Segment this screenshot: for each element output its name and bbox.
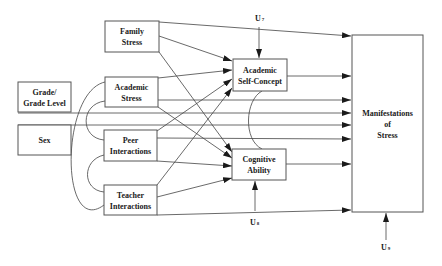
error-term-u8: U8 — [250, 218, 260, 227]
svg-text:Academic: Academic — [243, 66, 277, 75]
svg-text:U8: U8 — [250, 218, 260, 227]
node-cognitive-ability: Cognitive Ability — [232, 149, 286, 180]
node-grade: Grade/ Grade Level — [18, 82, 71, 112]
svg-text:Interactions: Interactions — [110, 202, 151, 211]
svg-text:Manifestations: Manifestations — [362, 109, 413, 118]
edge-peer-selfconcept — [157, 79, 232, 131]
svg-text:Stress: Stress — [377, 131, 397, 140]
edge-peer-cognitive — [157, 161, 232, 166]
path-diagram: Grade/ Grade Level Sex Family Stress Aca… — [0, 0, 442, 266]
edge-academic-cognitive — [158, 107, 232, 158]
edge-family-manifest — [159, 22, 351, 36]
svg-text:Stress: Stress — [121, 94, 141, 103]
edge-family-selfconcept — [159, 36, 232, 61]
edge-teacher-cognitive — [157, 178, 232, 197]
svg-text:Stress: Stress — [122, 38, 142, 47]
node-academic-self-concept: Academic Self-Concept — [233, 59, 287, 91]
error-term-u9: U9 — [381, 243, 391, 252]
svg-text:Interactions: Interactions — [110, 147, 151, 156]
svg-text:Self-Concept: Self-Concept — [238, 77, 282, 86]
svg-text:Peer: Peer — [123, 136, 139, 145]
correlation-academic-teacher — [71, 82, 105, 210]
svg-text:Academic: Academic — [115, 83, 149, 92]
edge-teacher-manifest — [157, 210, 351, 215]
svg-text:U7: U7 — [255, 14, 265, 23]
edge-academic-selfconcept — [158, 70, 232, 78]
node-teacher-interactions: Teacher Interactions — [104, 185, 157, 215]
svg-text:Cognitive: Cognitive — [243, 155, 276, 164]
svg-text:Ability: Ability — [247, 166, 271, 175]
svg-text:Grade/: Grade/ — [33, 88, 58, 97]
svg-text:U9: U9 — [381, 243, 391, 252]
node-sex: Sex — [18, 125, 71, 155]
svg-text:Family: Family — [120, 27, 144, 36]
node-academic-stress: Academic Stress — [105, 77, 158, 107]
edge-peer-manifest — [157, 138, 351, 139]
svg-text:Grade Level: Grade Level — [23, 99, 66, 108]
node-family-stress: Family Stress — [105, 21, 159, 52]
node-peer-interactions: Peer Interactions — [104, 130, 157, 161]
node-manifestations-of-stress: Manifestations of Stress — [352, 35, 423, 212]
svg-text:of: of — [384, 120, 391, 129]
svg-text:Sex: Sex — [39, 136, 51, 145]
svg-text:Teacher: Teacher — [117, 191, 145, 200]
correlation-academic-peer — [86, 101, 105, 140]
error-term-u7: U7 — [255, 14, 265, 23]
correlation-peer-teacher — [88, 155, 105, 192]
